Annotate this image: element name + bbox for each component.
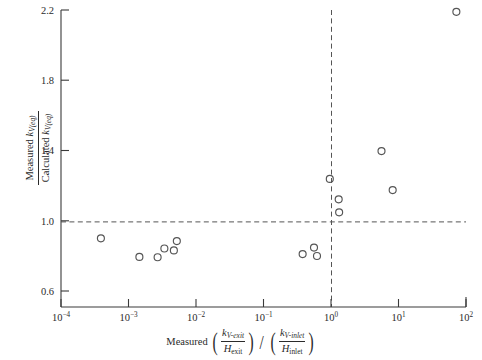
y-tick-label-2.2: 2.2 bbox=[41, 5, 54, 16]
y-tick-label-1.8: 1.8 bbox=[41, 75, 54, 86]
data-point bbox=[170, 247, 177, 254]
x-axis-ticks bbox=[61, 299, 466, 307]
data-point bbox=[154, 254, 161, 261]
data-point bbox=[336, 209, 343, 216]
data-point bbox=[326, 175, 333, 182]
reference-lines bbox=[61, 10, 466, 307]
scatter-plot: 2.2 1.8 1.4 1.0 0.6 10−4 10−3 10−2 10−1 … bbox=[0, 0, 482, 360]
x-tick-label-1e-2: 10−2 bbox=[187, 311, 206, 323]
x-tick-label-1e1: 101 bbox=[391, 311, 406, 323]
data-point bbox=[173, 238, 180, 245]
y-axis-ticks bbox=[61, 10, 69, 291]
data-point bbox=[136, 253, 143, 260]
data-point bbox=[389, 187, 396, 194]
data-point bbox=[299, 251, 306, 258]
data-point bbox=[335, 196, 342, 203]
y-tick-labels: 2.2 1.8 1.4 1.0 0.6 bbox=[41, 5, 55, 297]
figure-container: 2.2 1.8 1.4 1.0 0.6 10−4 10−3 10−2 10−1 … bbox=[0, 0, 482, 360]
x-tick-label-1e-4: 10−4 bbox=[52, 311, 71, 323]
x-tick-label-1e0: 100 bbox=[324, 311, 339, 323]
x-tick-labels: 10−4 10−3 10−2 10−1 100 101 102 bbox=[52, 311, 474, 323]
x-tick-label-1e-1: 10−1 bbox=[254, 311, 273, 323]
y-tick-label-1.4: 1.4 bbox=[41, 145, 55, 156]
y-tick-label-1.0: 1.0 bbox=[41, 216, 54, 227]
data-point bbox=[311, 244, 318, 251]
y-tick-label-0.6: 0.6 bbox=[41, 286, 54, 297]
x-tick-label-1e2: 102 bbox=[459, 311, 474, 323]
data-point bbox=[161, 245, 168, 252]
x-tick-label-1e-3: 10−3 bbox=[119, 311, 138, 323]
data-points-layer bbox=[97, 8, 459, 260]
axes-frame bbox=[61, 10, 466, 307]
data-point bbox=[97, 235, 104, 242]
data-point bbox=[378, 148, 385, 155]
data-point bbox=[313, 252, 320, 259]
data-point bbox=[453, 8, 460, 15]
